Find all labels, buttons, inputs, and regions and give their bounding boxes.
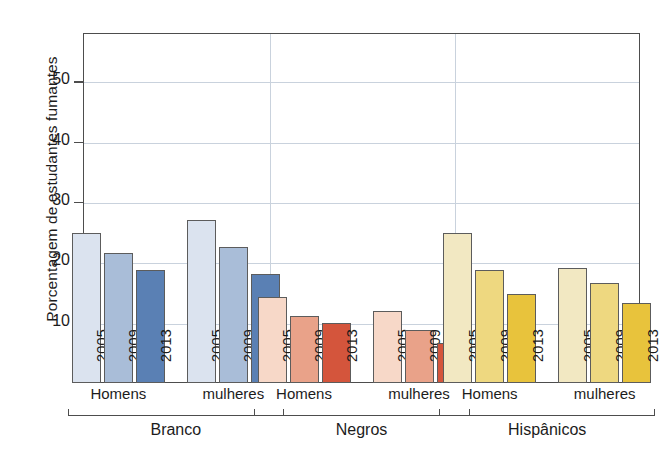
bar-year-label-wrap: 2013 [137,322,164,378]
bar: 2013 [322,323,351,383]
bar: 2013 [136,270,165,383]
bar: 2009 [405,330,434,383]
race-label: Negros [258,421,466,439]
bar-year-label-wrap: 2009 [591,322,618,378]
bar-year-label-wrap: 2009 [291,322,318,378]
y-axis-tick-label: 40 [52,131,70,149]
bar-year-label-wrap: 2013 [623,322,650,378]
bar-year-label: 2013 [530,329,546,362]
y-axis-tick: 20 [0,262,83,263]
y-axis-tick-label: 10 [52,312,70,330]
bar-year-label-wrap: 2009 [476,322,503,378]
bar: 2013 [622,303,651,383]
bar: 2005 [187,220,216,383]
bar: 2005 [258,297,287,383]
bar: 2005 [443,233,472,383]
y-axis-tick-mark [74,142,83,143]
bar: 2009 [290,316,319,383]
bar: 2005 [373,311,402,383]
bar-year-label-wrap: 2005 [188,322,215,378]
sex-label-mulheres: mulheres [558,385,651,402]
y-axis-tick-label: 50 [52,70,70,88]
bar-year-label-wrap: 2013 [323,322,350,378]
group-bracket [439,409,655,416]
race-label: Hispânicos [443,421,651,439]
bar: 2005 [72,233,101,383]
sex-label-homens: Homens [72,385,165,402]
bar-year-label-wrap: 2013 [508,322,535,378]
bar-year-label-wrap: 2005 [444,322,471,378]
bar: 2009 [590,283,619,383]
y-axis-tick-mark [74,81,83,82]
bar-year-label-wrap: 2009 [105,322,132,378]
sex-label-homens: Homens [258,385,351,402]
group-bracket [68,409,284,416]
bar-year-label-wrap: 2005 [259,322,286,378]
bar-year-label: 2013 [158,329,174,362]
bar: 2013 [507,294,536,383]
category-labels: HomensmulheresBrancoHomensmulheresNegros… [0,383,657,449]
bar: 2009 [219,247,248,383]
sex-label-homens: Homens [443,385,536,402]
bar-year-label-wrap: 2005 [73,322,100,378]
bar-year-label-wrap: 2009 [220,322,247,378]
y-axis-tick: 40 [0,142,83,143]
bar-year-label-wrap: 2009 [406,322,433,378]
bar-year-label: 2013 [645,329,661,362]
y-axis-tick-label: 20 [52,251,70,269]
race-label: Branco [72,421,280,439]
bar: 2009 [104,253,133,383]
bars-layer: 2005200920132005200920132005200920132005… [83,33,640,383]
y-axis-tick: 10 [0,323,83,324]
bar-year-label: 2013 [344,329,360,362]
group-bracket [254,409,470,416]
y-axis-tick-label: 30 [52,191,70,209]
bar: 2009 [475,270,504,383]
bar: 2005 [558,268,587,383]
bar-year-label-wrap: 2005 [374,322,401,378]
y-axis-tick: 30 [0,202,83,203]
y-axis-tick: 50 [0,81,83,82]
bar-year-label-wrap: 2005 [559,322,586,378]
y-axis-tick-mark [74,202,83,203]
